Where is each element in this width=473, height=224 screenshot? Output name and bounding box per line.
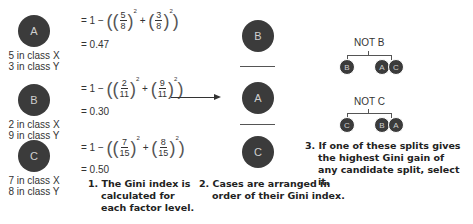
fraction: 211 [120, 78, 129, 99]
plus: + [142, 83, 148, 94]
class-counts-B: 2 in class X 9 in class Y [4, 119, 64, 141]
caption-line: order of their Gini index. [199, 190, 345, 202]
node-A: A [18, 15, 50, 47]
node-label: C [254, 146, 262, 158]
split-node-right-2: C [388, 59, 404, 75]
denominator: 15 [158, 148, 168, 158]
caption-line: any candidate split, select it. [305, 164, 473, 188]
node-label: A [379, 63, 384, 72]
class-x-count: 5 in class X [4, 50, 64, 61]
caption-line: 3. If one of these splits gives [305, 140, 473, 152]
caption-line: the highest Gini gain of [305, 152, 473, 164]
ordered-node-1: B [242, 20, 274, 52]
caption-line: calculated for [88, 190, 194, 202]
plus: + [140, 15, 146, 26]
denominator: 15 [120, 148, 130, 158]
divider [240, 66, 275, 67]
fraction: 715 [120, 137, 130, 158]
split-node-right-2: A [388, 117, 404, 133]
fraction: 911 [158, 78, 167, 99]
node-label: B [254, 30, 261, 42]
ordered-node-3: C [242, 136, 274, 168]
gini-result-B: = 0.30 [81, 106, 109, 117]
numerator: 2 [121, 78, 128, 89]
exponent: 2 [136, 76, 139, 82]
fraction: 38 [155, 10, 162, 31]
caption-step3: 3. If one of these splits gives the high… [305, 140, 473, 188]
node-label: A [393, 121, 398, 130]
fraction: 815 [158, 137, 168, 158]
denominator: 8 [156, 21, 161, 31]
gini-result-A: = 0.47 [81, 39, 109, 50]
node-label: B [344, 63, 349, 72]
numerator: 8 [160, 137, 167, 148]
numerator: 9 [159, 78, 166, 89]
class-y-count: 3 in class Y [4, 61, 64, 72]
split-node-left: C [339, 117, 355, 133]
caption-step1: 1. The Gini index is calculated for each… [88, 178, 194, 214]
gini-formula-B: = 1 − (( 211 )2 + ( 911 )2) [81, 78, 183, 99]
split-label: NOT B [354, 37, 384, 48]
gini-result-C: = 0.50 [81, 164, 109, 175]
class-x-count: 7 in class X [4, 175, 64, 186]
split-label: NOT C [354, 96, 385, 107]
formula-prefix: = 1 − [81, 15, 104, 26]
node-label: B [379, 121, 384, 130]
node-C: C [18, 140, 50, 172]
caption-line: 1. The Gini index is [88, 178, 194, 190]
numerator: 5 [120, 10, 127, 21]
formula-prefix: = 1 − [81, 83, 104, 94]
divider [240, 124, 275, 125]
class-counts-C: 7 in class X 8 in class Y [4, 175, 64, 197]
exponent: 2 [134, 8, 137, 14]
exponent: 2 [137, 135, 140, 141]
class-counts-A: 5 in class X 3 in class Y [4, 50, 64, 72]
class-x-count: 2 in class X [4, 119, 64, 130]
caption-line: each factor level. [88, 202, 194, 214]
node-label: C [344, 121, 350, 130]
numerator: 7 [121, 137, 128, 148]
node-label: C [30, 150, 38, 162]
formula-prefix: = 1 − [81, 142, 104, 153]
denominator: 11 [120, 89, 129, 99]
node-label: B [30, 94, 37, 106]
node-label: A [30, 25, 37, 37]
node-B: B [18, 84, 50, 116]
class-y-count: 8 in class Y [4, 186, 64, 197]
gini-formula-A: = 1 − (( 58 )2 + ( 38 )2) [81, 10, 179, 31]
gini-formula-C: = 1 − (( 715 )2 + ( 815 )2) [81, 137, 185, 158]
denominator: 11 [158, 89, 167, 99]
split-node-left: B [339, 59, 355, 75]
node-label: A [254, 92, 261, 104]
fraction: 58 [120, 10, 127, 31]
numerator: 3 [155, 10, 162, 21]
denominator: 8 [121, 21, 126, 31]
ordered-node-2: A [242, 82, 274, 114]
plus: + [143, 142, 149, 153]
node-label: C [393, 63, 399, 72]
